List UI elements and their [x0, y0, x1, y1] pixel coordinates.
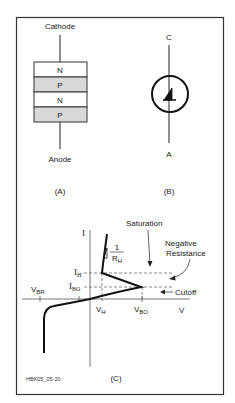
saturation-label: Saturation [126, 219, 162, 228]
layer-n2-label: N [57, 96, 63, 105]
layer-n1-label: N [57, 66, 63, 75]
anode-label: Anode [48, 155, 72, 164]
x-axis-label: V [179, 306, 185, 315]
caption-c: (C) [110, 374, 121, 383]
symbol-triangle-icon [164, 88, 172, 100]
layer-p2-label: P [57, 111, 62, 120]
saturation-arrow [148, 230, 150, 264]
panel-b-schematic-symbol: C A (B) [152, 33, 188, 196]
negative-resistance-label-1: Negative [165, 239, 197, 248]
ih-label: IH [74, 267, 82, 278]
saturation-arrowhead-icon [148, 261, 153, 267]
iv-curve [44, 234, 141, 353]
layer-p1-label: P [57, 81, 62, 90]
cathode-label: Cathode [45, 22, 76, 31]
panel-a-pnpn-structure: Cathode N P N P Anode (A) [34, 22, 87, 196]
figure-id-label: HBK05_05-20 [26, 376, 61, 382]
caption-b: (B) [164, 187, 175, 196]
vbo-label: VBO [134, 305, 148, 315]
slope-denominator: RH [112, 254, 122, 264]
negative-resistance-label-2: Resistance [166, 249, 206, 258]
cutoff-arrowhead-icon [160, 290, 165, 295]
terminal-a-label: A [166, 150, 172, 159]
y-axis-label: I [82, 228, 85, 238]
ibo-label: IBO [69, 281, 81, 292]
negative-resistance-arrowhead-icon [169, 276, 176, 281]
panel-c-iv-curve: I V 1 RH IH IBO VBR VH VBO Saturation Ne… [22, 219, 206, 383]
vbr-label: VBR [31, 285, 45, 295]
negative-resistance-arrow [172, 259, 190, 278]
slope-numerator: 1 [115, 243, 120, 252]
caption-a: (A) [55, 187, 66, 196]
terminal-c-label: C [166, 33, 172, 42]
vh-label: VH [96, 305, 106, 315]
four-layer-diode-figure: Cathode N P N P Anode (A) C A (B) I V [0, 0, 235, 403]
cutoff-label: Cutoff [175, 288, 197, 297]
